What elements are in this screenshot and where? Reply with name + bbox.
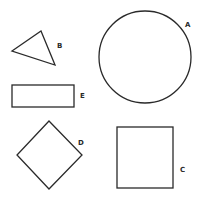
diagram-svg: A B C D E [0, 0, 198, 200]
label-b: B [57, 42, 62, 50]
label-a: A [185, 21, 191, 29]
shape-b-triangle: B [12, 31, 62, 65]
label-e: E [80, 92, 85, 100]
label-d: D [78, 139, 84, 147]
shape-c-square: C [117, 127, 185, 188]
shape-d-diamond: D [17, 121, 84, 189]
shape-e-rectangle: E [12, 85, 85, 107]
shapes-diagram: A B C D E [0, 0, 198, 200]
label-c: C [180, 166, 185, 174]
shape-a-circle: A [99, 11, 191, 103]
